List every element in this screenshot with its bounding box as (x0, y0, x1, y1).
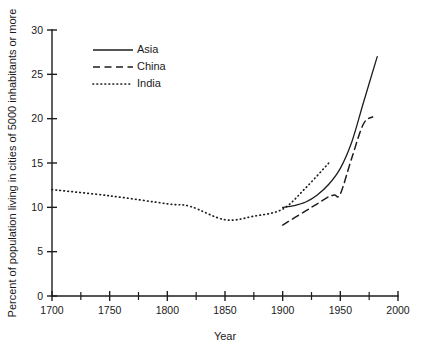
x-tick-label-1950: 1950 (329, 304, 353, 316)
y-tick-label-0: 0 (37, 290, 43, 302)
y-tick-label-5: 5 (37, 245, 43, 257)
legend-label-asia: Asia (137, 43, 159, 55)
legend-label-china: China (137, 60, 167, 72)
chart-svg: 051015202530 170017501800185019001950200… (0, 0, 424, 354)
y-axis-title: Percent of population living in cities o… (6, 9, 18, 318)
chart-background (0, 0, 424, 354)
legend-label-india: India (137, 77, 162, 89)
x-tick-label-1800: 1800 (156, 304, 180, 316)
x-tick-label-1700: 1700 (40, 304, 64, 316)
y-tick-label-15: 15 (31, 157, 43, 169)
x-tick-label-1750: 1750 (98, 304, 122, 316)
y-tick-label-30: 30 (31, 24, 43, 36)
x-tick-label-1900: 1900 (271, 304, 295, 316)
y-tick-label-20: 20 (31, 112, 43, 124)
y-tick-label-10: 10 (31, 201, 43, 213)
x-tick-label-1850: 1850 (213, 304, 237, 316)
x-tick-label-2000: 2000 (386, 304, 410, 316)
x-axis-title: Year (214, 330, 237, 342)
chart-figure: 051015202530 170017501800185019001950200… (0, 0, 424, 354)
y-tick-label-25: 25 (31, 68, 43, 80)
